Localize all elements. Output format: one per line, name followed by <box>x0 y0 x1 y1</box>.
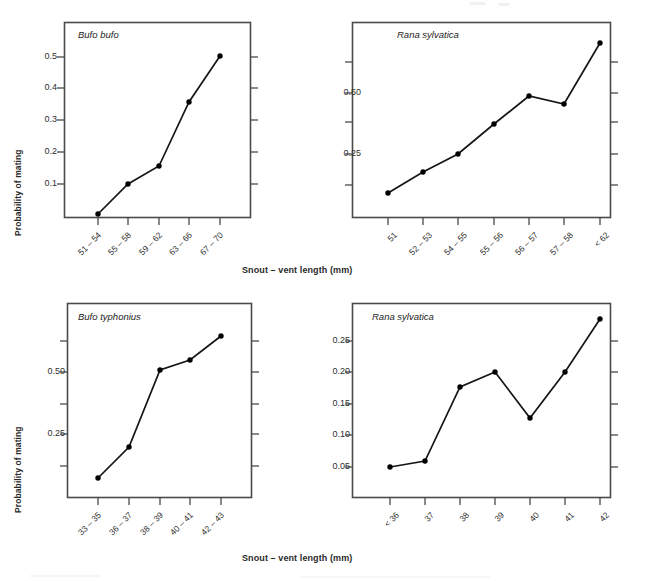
y-tick-label: 0.05 <box>318 461 350 471</box>
figure-canvas: Probability of mating Probability of mat… <box>0 0 651 581</box>
plot-area-bottom-right <box>0 0 651 581</box>
y-tick-label: 0.15 <box>318 398 350 408</box>
panel-bottom-right: Rana sylvatica 0.25 0.20 0.15 0.10 0.05 <box>0 0 651 581</box>
y-tick-label: 0.20 <box>318 366 350 376</box>
y-tick-label: 0.10 <box>318 429 350 439</box>
panel-title-bottom-right: Rana sylvatica <box>372 311 434 322</box>
y-tick-label: 0.25 <box>318 335 350 345</box>
